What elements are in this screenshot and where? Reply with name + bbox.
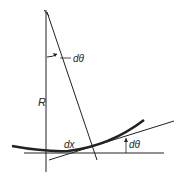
- label-arc-length: dx: [64, 139, 76, 150]
- label-radius: R: [38, 96, 46, 108]
- angle-arrow-right: [124, 138, 128, 142]
- curvature-diagram: dθ R dx dθ: [0, 0, 186, 182]
- inclined-radius-line: [47, 12, 97, 160]
- label-angle-top: dθ: [73, 53, 85, 64]
- curve: [12, 120, 144, 151]
- label-angle-right: dθ: [129, 139, 141, 150]
